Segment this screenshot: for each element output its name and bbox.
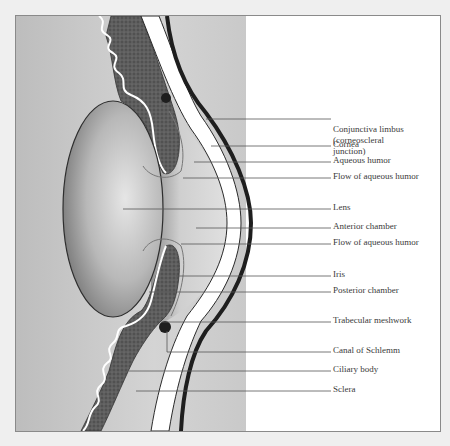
label-canal-of-schlemm: Canal of Schlemm xyxy=(333,345,400,356)
label-lens: Lens xyxy=(333,202,351,213)
label-cornea: Cornea xyxy=(333,139,359,150)
lower-canal-of-schlemm xyxy=(159,321,171,333)
label-flow-of-aqueous-humor-lower: Flow of aqueous humor xyxy=(333,237,419,248)
label-sclera: Sclera xyxy=(333,384,356,395)
label-aqueous-humor: Aqueous humor xyxy=(333,155,391,166)
label-ciliary-body: Ciliary body xyxy=(333,364,378,375)
label-anterior-chamber: Anterior chamber xyxy=(333,221,397,232)
label-conjunctiva-line-1: Conjunctiva limbus xyxy=(333,124,404,135)
label-iris: Iris xyxy=(333,269,345,280)
label-posterior-chamber: Posterior chamber xyxy=(333,285,399,296)
upper-canal-of-schlemm xyxy=(161,93,171,103)
label-trabecular-meshwork: Trabecular meshwork xyxy=(333,315,411,326)
label-flow-of-aqueous-humor-upper: Flow of aqueous humor xyxy=(333,171,419,182)
